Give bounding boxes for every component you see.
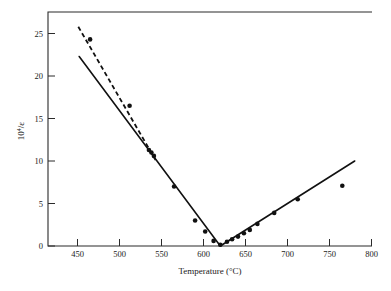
data-point (127, 103, 132, 108)
data-point (236, 234, 241, 239)
x-tick-label-600: 600 (197, 249, 210, 259)
data-point (88, 37, 93, 42)
data-point (230, 237, 235, 242)
data-point (340, 183, 345, 188)
x-axis-title: Temperature (°C) (178, 266, 241, 276)
data-point (248, 228, 253, 233)
data-point (172, 184, 177, 189)
data-point (211, 239, 216, 244)
data-point (295, 197, 300, 202)
x-tick-label-700: 700 (281, 249, 294, 259)
data-point (242, 231, 247, 236)
x-tick-label-650: 650 (239, 249, 252, 259)
data-point (152, 154, 157, 159)
data-point (255, 222, 260, 227)
y-axis-title-tail: /ε (16, 122, 26, 129)
data-point (272, 211, 277, 216)
x-tick-label-550: 550 (155, 249, 168, 259)
x-tick-label-450: 450 (71, 249, 84, 259)
x-tick-label-500: 500 (113, 249, 126, 259)
y-tick-label-5: 5 (39, 199, 43, 209)
y-tick-label-15: 15 (35, 114, 44, 124)
figure-container: 0 5 10 15 20 25 450 500 550 600 650 700 (0, 0, 391, 291)
plot-background (0, 0, 391, 291)
data-point (193, 218, 198, 223)
data-point (203, 229, 208, 234)
y-tick-label-25: 25 (35, 29, 44, 39)
y-tick-label-0: 0 (39, 241, 43, 251)
x-tick-label-800: 800 (365, 249, 378, 259)
y-tick-label-10: 10 (35, 156, 44, 166)
data-point (218, 242, 223, 247)
data-point (225, 240, 230, 245)
x-tick-label-750: 750 (323, 249, 336, 259)
curie-weiss-plot: 0 5 10 15 20 25 450 500 550 600 650 700 (0, 0, 391, 291)
y-tick-label-20: 20 (35, 71, 44, 81)
